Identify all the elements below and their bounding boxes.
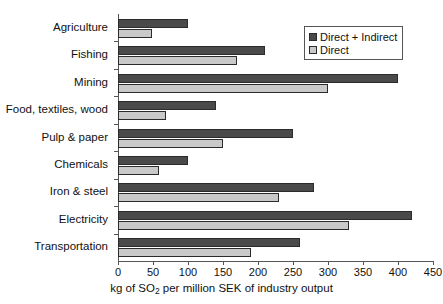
y-axis-tick	[114, 124, 118, 125]
bar[interactable]	[118, 56, 237, 65]
category-label: Transportation	[0, 240, 108, 252]
bar[interactable]	[118, 129, 293, 138]
x-axis-tick-label: 400	[378, 266, 418, 278]
x-axis-tick-label: 150	[203, 266, 243, 278]
category-label: Chemicals	[0, 158, 108, 170]
legend-label-direct-indirect: Direct + Indirect	[320, 31, 397, 43]
legend-swatch-icon-direct-indirect	[309, 33, 317, 41]
bar[interactable]	[118, 84, 328, 93]
category-label: Mining	[0, 76, 108, 88]
x-axis-tick	[258, 261, 259, 265]
legend-swatch-icon-direct	[309, 46, 317, 54]
category-label: Electricity	[0, 213, 108, 225]
x-axis-tick	[433, 261, 434, 265]
legend-label-direct: Direct	[320, 44, 349, 56]
x-axis-tick	[363, 261, 364, 265]
y-axis-tick	[114, 206, 118, 207]
bar[interactable]	[118, 101, 216, 110]
y-axis-tick	[114, 69, 118, 70]
y-axis-tick	[114, 179, 118, 180]
bar[interactable]	[118, 74, 398, 83]
bar[interactable]	[118, 139, 223, 148]
x-axis-tick-label: 450	[413, 266, 443, 278]
bar-group	[118, 181, 433, 203]
x-axis-tick-label: 200	[238, 266, 278, 278]
bar-group	[118, 72, 433, 94]
legend-item-direct-indirect[interactable]: Direct + Indirect	[309, 30, 397, 43]
bar[interactable]	[118, 193, 279, 202]
x-axis-title-post: per million SEK of industry output	[160, 282, 333, 294]
y-axis-tick	[114, 96, 118, 97]
bar[interactable]	[118, 156, 188, 165]
x-axis-tick	[398, 261, 399, 265]
bar[interactable]	[118, 29, 152, 38]
bar[interactable]	[118, 166, 159, 175]
x-axis-tick	[293, 261, 294, 265]
bar[interactable]	[118, 111, 166, 120]
x-axis-tick-label: 100	[168, 266, 208, 278]
x-axis-title: kg of SO2 per million SEK of industry ou…	[0, 282, 443, 296]
x-axis-tick	[153, 261, 154, 265]
category-label: Fishing	[0, 48, 108, 60]
x-axis-tick-label: 250	[273, 266, 313, 278]
x-axis-tick	[188, 261, 189, 265]
x-axis-tick	[118, 261, 119, 265]
x-axis-tick-label: 350	[343, 266, 383, 278]
x-axis-tick-label: 300	[308, 266, 348, 278]
x-axis-tick	[328, 261, 329, 265]
legend: Direct + Indirect Direct	[304, 26, 403, 60]
bar-chart: AgricultureFishingMiningFood, textiles, …	[0, 0, 443, 304]
bar[interactable]	[118, 221, 349, 230]
bar[interactable]	[118, 46, 265, 55]
category-axis-labels: AgricultureFishingMiningFood, textiles, …	[0, 14, 113, 261]
bar-group	[118, 209, 433, 231]
category-label: Pulp & paper	[0, 131, 108, 143]
category-label: Iron & steel	[0, 185, 108, 197]
category-label: Food, textiles, wood	[0, 103, 108, 115]
x-axis-tick-label: 0	[98, 266, 138, 278]
x-axis-tick	[223, 261, 224, 265]
bar-group	[118, 236, 433, 258]
y-axis-tick	[114, 234, 118, 235]
legend-item-direct[interactable]: Direct	[309, 43, 397, 56]
bar[interactable]	[118, 183, 314, 192]
category-label: Agriculture	[0, 21, 108, 33]
bar[interactable]	[118, 248, 251, 257]
x-axis-title-pre: kg of SO	[110, 282, 155, 294]
bar[interactable]	[118, 238, 300, 247]
bar[interactable]	[118, 211, 412, 220]
y-axis-tick	[114, 151, 118, 152]
bar-group	[118, 154, 433, 176]
y-axis-tick	[114, 41, 118, 42]
bar[interactable]	[118, 19, 188, 28]
bar-group	[118, 99, 433, 121]
x-axis-line	[118, 261, 433, 262]
bar-group	[118, 127, 433, 149]
x-axis-tick-label: 50	[133, 266, 173, 278]
